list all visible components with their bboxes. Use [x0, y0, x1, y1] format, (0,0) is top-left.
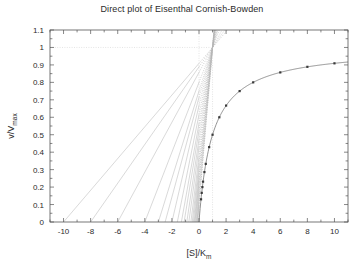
svg-text:0.7: 0.7: [33, 96, 45, 105]
michaelis-menten-curve: [199, 62, 348, 222]
x-axis-title: [S]/Km: [187, 248, 212, 260]
svg-text:-8: -8: [87, 227, 95, 236]
direct-linear-plot-lines: [64, 0, 229, 222]
svg-text:0.6: 0.6: [33, 113, 45, 122]
plot-canvas: -10-8-6-4-20246810 00.10.20.30.40.50.60.…: [0, 0, 364, 267]
svg-text:0: 0: [40, 218, 45, 227]
svg-text:8: 8: [305, 227, 310, 236]
svg-text:0.4: 0.4: [33, 148, 45, 157]
svg-text:0: 0: [197, 227, 202, 236]
svg-text:-6: -6: [114, 227, 122, 236]
y-axis-title: v/Vmax: [6, 113, 18, 139]
svg-text:10: 10: [330, 227, 339, 236]
svg-text:-2: -2: [168, 227, 176, 236]
svg-text:6: 6: [278, 227, 283, 236]
svg-text:0.9: 0.9: [33, 61, 45, 70]
svg-text:0.3: 0.3: [33, 166, 45, 175]
svg-text:1.1: 1.1: [33, 26, 45, 35]
svg-text:-4: -4: [141, 227, 149, 236]
svg-text:-10: -10: [58, 227, 70, 236]
svg-text:0.1: 0.1: [33, 201, 45, 210]
svg-text:0.5: 0.5: [33, 131, 45, 140]
chart-figure: Direct plot of Eisenthal Cornish-Bowden …: [0, 0, 364, 267]
svg-text:4: 4: [251, 227, 256, 236]
svg-text:2: 2: [224, 227, 229, 236]
svg-text:1: 1: [40, 43, 45, 52]
data-point-markers: [200, 62, 336, 200]
svg-text:0.8: 0.8: [33, 78, 45, 87]
svg-text:0.2: 0.2: [33, 183, 45, 192]
